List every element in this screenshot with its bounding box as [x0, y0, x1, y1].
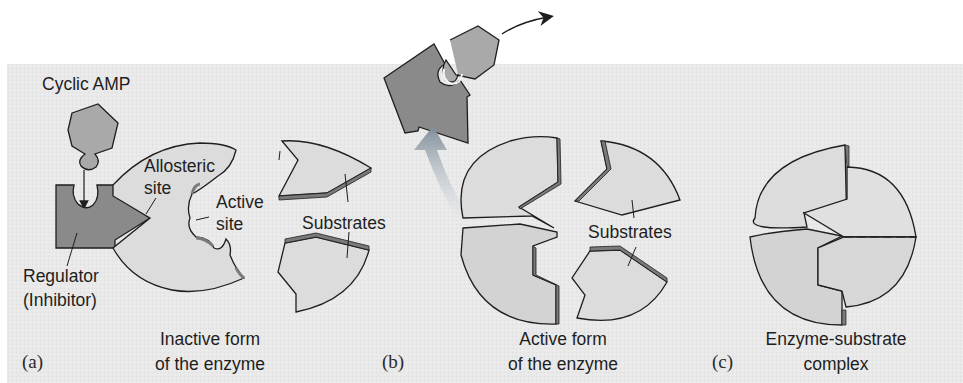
caption-c-line1: Enzyme-substrate: [765, 329, 906, 349]
panel-marker-c: (c): [712, 351, 733, 373]
caption-b-line1: Active form: [519, 329, 607, 349]
caption-a-line2: of the enzyme: [155, 354, 265, 374]
label-active-site-line2: site: [216, 214, 243, 234]
caption-c-line2: complex: [803, 354, 868, 374]
label-substrates-a: Substrates: [302, 213, 386, 233]
caption-b-line2: of the enzyme: [508, 354, 618, 374]
caption-a-line1: Inactive form: [160, 329, 260, 349]
panel-marker-b: (b): [382, 351, 404, 373]
label-regulator-line1: Regulator: [23, 266, 99, 286]
label-allosteric-site-line1: Allosteric: [144, 156, 215, 176]
allosteric-enzyme-diagram: Cyclic AMP Allosteric site Active site S…: [0, 0, 963, 383]
label-substrates-b: Substrates: [588, 222, 672, 242]
label-regulator-line2: (Inhibitor): [23, 290, 97, 310]
label-allosteric-site-line2: site: [144, 178, 171, 198]
label-cyclic-amp: Cyclic AMP: [42, 74, 130, 94]
release-arrow-icon: [502, 17, 548, 34]
panel-marker-a: (a): [22, 351, 43, 373]
label-active-site-line1: Active: [216, 192, 264, 212]
